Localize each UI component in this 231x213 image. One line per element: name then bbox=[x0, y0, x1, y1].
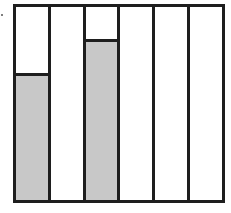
stray-dot bbox=[1, 14, 3, 16]
column-5 bbox=[155, 7, 190, 200]
column-2 bbox=[51, 7, 86, 200]
column-3 bbox=[86, 7, 121, 200]
column-diagram bbox=[13, 4, 225, 203]
shaded-region bbox=[16, 73, 48, 200]
column-4 bbox=[120, 7, 155, 200]
column-1 bbox=[16, 7, 51, 200]
column-6 bbox=[190, 7, 222, 200]
shaded-region bbox=[86, 39, 118, 200]
